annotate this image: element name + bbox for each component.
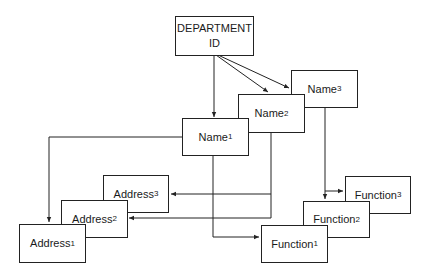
department-id-box: DEPARTMENT ID	[175, 16, 254, 56]
arrow-dept-to-name3	[218, 55, 289, 88]
address1-label: Address	[30, 237, 70, 250]
department-id-line1: DEPARTMENT	[177, 21, 252, 36]
arrow-dept-to-name2	[216, 55, 268, 92]
function3-label: Function	[355, 189, 397, 202]
arrow-name1-to-function1	[213, 155, 259, 237]
function1-label: Function	[271, 238, 313, 251]
address3-label: Address	[114, 188, 154, 201]
address1-box: Address1	[19, 224, 86, 263]
function1-box: Function1	[261, 225, 328, 263]
name1-box: Name1	[182, 118, 249, 156]
name1-label: Name	[199, 131, 228, 144]
department-id-line2: ID	[209, 36, 220, 51]
name2-label: Name	[255, 107, 284, 120]
name3-label: Name	[308, 83, 337, 96]
